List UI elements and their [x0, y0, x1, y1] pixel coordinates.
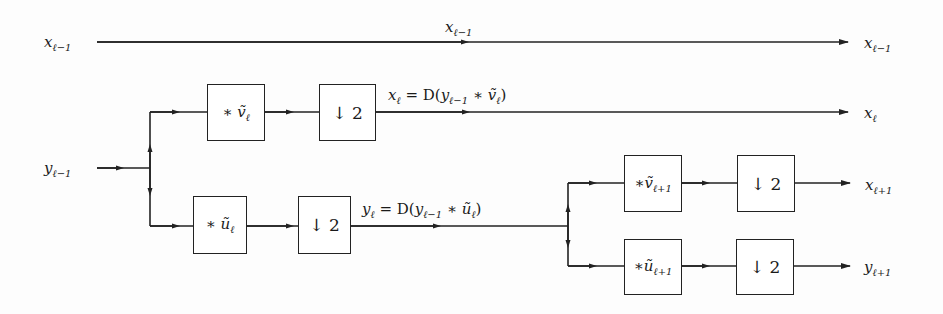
output-x-l-label: xℓ [864, 106, 877, 124]
downsample-box-upper-2: ↓ 2 [737, 155, 795, 212]
input-x-prev-label: xℓ−1 [44, 35, 71, 53]
downsample-box-lower-1: ↓ 2 [298, 196, 351, 254]
filter-bank-diagram: xℓ−1 yℓ−1 xℓ−1 xℓ−1 ∗ ṽℓ ↓ 2 xℓ = D(yℓ−1… [0, 0, 943, 314]
connection-lines [0, 0, 943, 314]
output-x-l-plus-1-label: xℓ+1 [865, 178, 892, 196]
equation-y-l: yℓ = D(yℓ−1 ∗ ũℓ) [362, 202, 481, 220]
filter-box-v-l: ∗ ṽℓ [207, 84, 265, 141]
input-y-prev-label: yℓ−1 [44, 161, 71, 179]
output-x-prev-label: xℓ−1 [864, 36, 891, 54]
downsample-box-lower-2: ↓ 2 [736, 239, 794, 295]
filter-box-v-l-plus-1: ∗ṽℓ+1 [624, 155, 682, 212]
top-line-mid-label: xℓ−1 [445, 20, 472, 38]
filter-box-u-l: ∗ ũℓ [193, 196, 247, 254]
filter-box-u-l-plus-1: ∗ũℓ+1 [624, 239, 682, 295]
downsample-box-upper-1: ↓ 2 [319, 84, 376, 141]
output-y-l-plus-1-label: yℓ+1 [864, 260, 891, 278]
equation-x-l: xℓ = D(yℓ−1 ∗ ṽℓ) [388, 88, 506, 106]
